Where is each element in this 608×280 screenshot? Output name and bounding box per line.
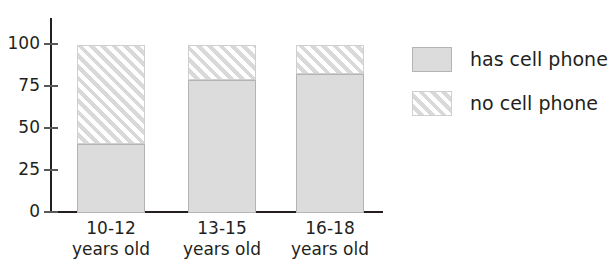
y-tick-label: 50 <box>0 119 40 136</box>
x-category-label: 13-15 years old <box>166 218 278 260</box>
y-tick-mark <box>44 211 58 213</box>
y-tick-mark <box>44 85 58 87</box>
y-tick-label: 100 <box>0 35 40 52</box>
legend-label-no-cell-phone: no cell phone <box>470 92 598 114</box>
y-axis-line <box>50 18 52 213</box>
bar-stack <box>77 45 145 213</box>
legend-swatch-hatch-icon <box>412 91 452 116</box>
y-tick-label: 75 <box>0 77 40 94</box>
bar-segment-no-cell-phone <box>188 45 256 80</box>
legend-swatch-solid-icon <box>412 47 452 72</box>
bar-segment-has-cell-phone <box>296 74 364 213</box>
bar-stack <box>296 45 364 213</box>
chart-legend: has cell phone no cell phone <box>412 42 597 130</box>
y-tick-mark <box>44 127 58 129</box>
y-tick-label: 25 <box>0 161 40 178</box>
legend-item-no-cell-phone: no cell phone <box>412 86 597 120</box>
legend-item-has-cell-phone: has cell phone <box>412 42 597 76</box>
x-category-label: 16-18 years old <box>274 218 386 260</box>
x-category-label: 10-12 years old <box>55 218 167 260</box>
legend-label-has-cell-phone: has cell phone <box>470 48 608 70</box>
bar-segment-no-cell-phone <box>296 45 364 74</box>
bar-segment-has-cell-phone <box>188 80 256 213</box>
bar-segment-no-cell-phone <box>77 45 145 144</box>
y-tick-label: 0 <box>0 203 40 220</box>
bar-stack <box>188 45 256 213</box>
bar-segment-has-cell-phone <box>77 144 145 213</box>
y-tick-mark <box>44 43 58 45</box>
y-tick-mark <box>44 169 58 171</box>
plot-area: 0255075100 10-12 years old13-15 years ol… <box>0 0 400 280</box>
